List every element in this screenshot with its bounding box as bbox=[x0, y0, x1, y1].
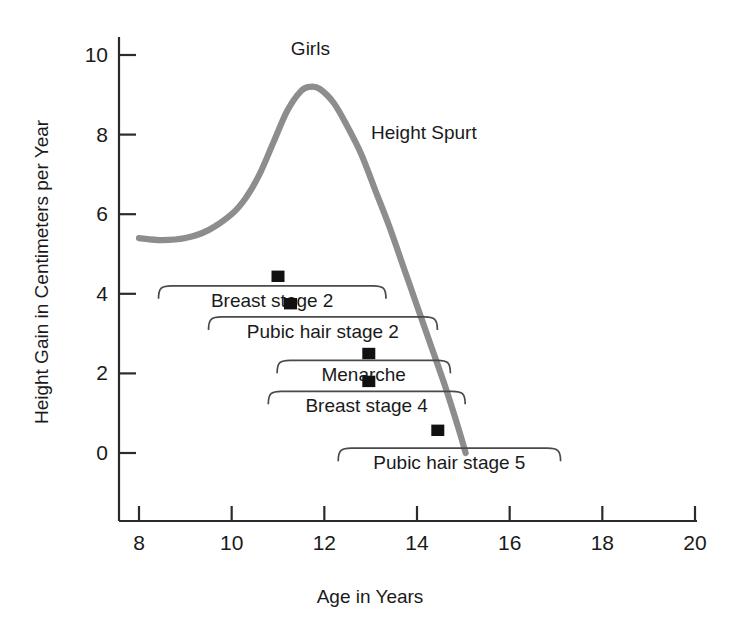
x-tick-label: 8 bbox=[133, 531, 145, 554]
median-marker bbox=[362, 348, 375, 359]
height-spurt-label: Height Spurt bbox=[371, 122, 477, 143]
bracket-label: Breast stage 2 bbox=[211, 290, 334, 311]
median-marker bbox=[431, 425, 444, 436]
bracket-label: Pubic hair stage 5 bbox=[373, 452, 525, 473]
y-tick-label: 2 bbox=[96, 361, 108, 384]
x-tick-label: 20 bbox=[683, 531, 706, 554]
y-axis-title: Height Gain in Centimeters per Year bbox=[31, 119, 52, 424]
x-axis-title: Age in Years bbox=[317, 586, 424, 607]
x-tick-label: 14 bbox=[405, 531, 429, 554]
y-tick-label: 6 bbox=[96, 202, 108, 225]
chart-container: 0246810 8101214161820 Age in Years Heigh… bbox=[0, 0, 735, 633]
y-tick-label: 4 bbox=[96, 282, 108, 305]
x-tick-label: 10 bbox=[220, 531, 243, 554]
x-tick-label: 18 bbox=[591, 531, 614, 554]
median-marker bbox=[284, 298, 297, 309]
y-tick-label: 10 bbox=[85, 43, 108, 66]
median-marker bbox=[362, 376, 375, 387]
median-marker bbox=[272, 271, 285, 282]
bracket-label: Pubic hair stage 2 bbox=[247, 321, 399, 342]
girls-title: Girls bbox=[291, 38, 330, 59]
y-tick-label: 8 bbox=[96, 123, 108, 146]
growth-velocity-chart: 0246810 8101214161820 Age in Years Heigh… bbox=[0, 0, 735, 633]
bracket-label: Breast stage 4 bbox=[305, 395, 428, 416]
x-tick-label: 16 bbox=[498, 531, 521, 554]
y-tick-label: 0 bbox=[96, 441, 108, 464]
x-tick-label: 12 bbox=[313, 531, 336, 554]
